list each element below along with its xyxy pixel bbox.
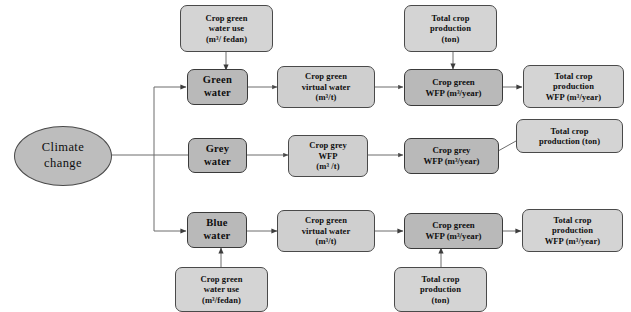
node-blue-water[interactable]: Blue water xyxy=(187,212,247,248)
node-green-water-label: Green water xyxy=(203,74,232,100)
node-total-crop-production-wfp-row1-label: Total crop production WFP (m³/year) xyxy=(546,71,602,102)
node-total-crop-production-wfp-row1[interactable]: Total crop production WFP (m³/year) xyxy=(523,65,624,108)
node-total-crop-production-top[interactable]: Total crop production (ton) xyxy=(404,5,497,52)
node-total-crop-production-top-label: Total crop production (ton) xyxy=(430,13,471,44)
node-climate-change[interactable]: Climate change xyxy=(14,126,112,186)
node-crop-green-water-use-bottom-label: Crop green water use (m³/fedan) xyxy=(200,274,242,305)
node-total-crop-production-wfp-row3[interactable]: Total crop production WFP (m³/year) xyxy=(522,209,623,252)
node-total-crop-production-mid[interactable]: Total crop production (ton) xyxy=(516,119,623,153)
node-crop-grey-wfp-year[interactable]: Crop grey WFP (m³/year) xyxy=(404,138,499,174)
node-total-crop-production-bottom-label: Total crop production (ton) xyxy=(420,274,461,305)
node-crop-grey-wfp-t[interactable]: Crop grey WFP (m³ /t) xyxy=(288,135,368,177)
node-crop-grey-wfp-year-label: Crop grey WFP (m³/year) xyxy=(423,145,479,166)
node-crop-green-water-use-top[interactable]: Crop green water use (m³/ fedan) xyxy=(180,5,273,52)
node-green-water[interactable]: Green water xyxy=(187,69,248,105)
node-crop-green-virtual-water-row1-label: Crop green virtual water (m³/t) xyxy=(302,71,351,102)
flowchart-canvas: Climate change Crop green water use (m³/… xyxy=(0,0,631,312)
node-total-crop-production-bottom[interactable]: Total crop production (ton) xyxy=(394,267,487,312)
node-total-crop-production-mid-label: Total crop production (ton) xyxy=(539,126,600,147)
node-crop-green-virtual-water-row3-label: Crop green virtual water (m³/t) xyxy=(302,215,351,246)
node-crop-green-virtual-water-row3[interactable]: Crop green virtual water (m³/t) xyxy=(277,210,375,252)
node-grey-water-label: Grey water xyxy=(204,143,231,169)
node-crop-green-wfp-row3-label: Crop green WFP (m³/year) xyxy=(425,220,481,241)
node-crop-green-water-use-bottom[interactable]: Crop green water use (m³/fedan) xyxy=(175,267,268,312)
node-blue-water-label: Blue water xyxy=(203,217,230,243)
node-crop-green-wfp-row1-label: Crop green WFP (m³/year) xyxy=(425,77,481,98)
node-climate-change-label: Climate change xyxy=(42,140,84,171)
node-crop-green-water-use-top-label: Crop green water use (m³/ fedan) xyxy=(205,13,247,44)
node-total-crop-production-wfp-row3-label: Total crop production WFP (m³/year) xyxy=(545,215,601,246)
node-crop-grey-wfp-t-label: Crop grey WFP (m³ /t) xyxy=(309,140,347,171)
node-crop-green-wfp-row1[interactable]: Crop green WFP (m³/year) xyxy=(404,69,503,106)
node-crop-green-wfp-row3[interactable]: Crop green WFP (m³/year) xyxy=(404,213,503,249)
node-grey-water[interactable]: Grey water xyxy=(188,138,247,173)
node-crop-green-virtual-water-row1[interactable]: Crop green virtual water (m³/t) xyxy=(277,66,375,108)
